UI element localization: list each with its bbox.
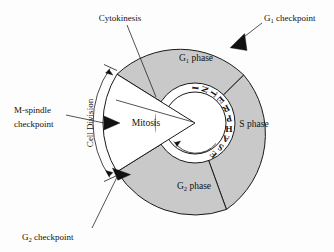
g1-checkpoint-leader xyxy=(240,23,262,40)
phase-label-g2: G2 phase xyxy=(177,181,211,192)
interphase-letter-6: H xyxy=(225,124,232,134)
callout-label-m-spindle-line1: M-spindle xyxy=(14,105,51,115)
phase-label-mitosis: Mitosis xyxy=(132,118,161,128)
cell-cycle-figure: I N T E R P H A S E Cell Division xyxy=(0,0,334,252)
cell-division-label: Cell Division xyxy=(85,98,95,147)
phase-label-s: S phase xyxy=(239,119,268,129)
callout-label-m-spindle-line2: checkpoint xyxy=(14,119,54,129)
callout-g1-tail: checkpoint xyxy=(274,13,316,23)
cell-cycle-diagram: I N T E R P H A S E Cell Division xyxy=(0,0,334,252)
g2-checkpoint-leader xyxy=(92,171,120,228)
phase-label-g2-tail: phase xyxy=(187,181,211,191)
phase-label-g1-tail: phase xyxy=(189,53,213,63)
callout-label-cytokinesis: Cytokinesis xyxy=(99,13,142,23)
callout-label-g1-checkpoint: G1 checkpoint xyxy=(264,13,316,24)
phase-label-g1: G1 phase xyxy=(179,53,213,64)
callout-label-g2-checkpoint: G2 checkpoint xyxy=(22,232,74,243)
callout-g2-tail: checkpoint xyxy=(32,232,74,242)
